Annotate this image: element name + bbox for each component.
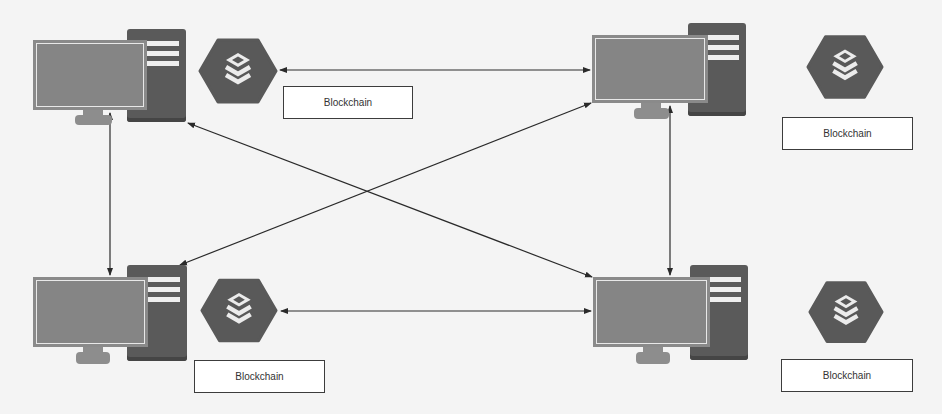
- database-stack-icon: [808, 278, 884, 346]
- edge-top-left-bottom-right: [188, 123, 592, 277]
- database-stack-icon: [806, 34, 884, 100]
- blockchain-label: Blockchain: [194, 360, 325, 393]
- blockchain-label: Blockchain: [782, 117, 913, 150]
- database-stack-icon: [200, 277, 278, 344]
- blockchain-label: Blockchain: [781, 359, 913, 392]
- blockchain-label: Blockchain: [283, 86, 413, 119]
- monitor-stand-icon: [636, 352, 670, 364]
- desktop-computer-icon: [592, 35, 708, 103]
- desktop-computer-icon: [33, 277, 148, 347]
- monitor-stand-icon: [634, 108, 669, 119]
- blockchain-network-diagram: Blockchain Blockchain: [0, 0, 942, 414]
- monitor-stand-icon: [75, 115, 112, 125]
- edge-bottom-left-top-right: [180, 103, 591, 265]
- desktop-computer-icon: [33, 40, 147, 110]
- desktop-computer-icon: [593, 277, 710, 347]
- monitor-stand-icon: [76, 352, 110, 364]
- database-stack-icon: [198, 38, 278, 104]
